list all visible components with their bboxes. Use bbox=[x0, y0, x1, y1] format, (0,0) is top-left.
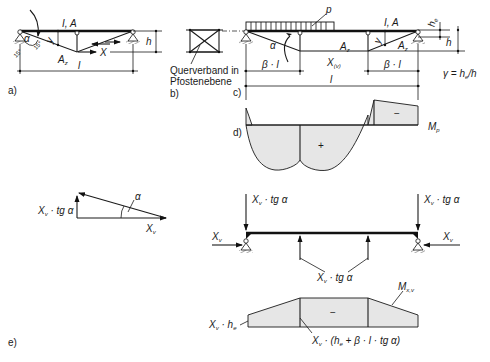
positive-moment-area bbox=[246, 115, 368, 171]
he-label: he bbox=[426, 16, 439, 28]
post-force-label: Xv · tg α bbox=[316, 272, 353, 284]
chord-area-label-right: Az bbox=[397, 40, 408, 52]
load-label: p bbox=[325, 4, 332, 15]
distributed-load-p: p bbox=[246, 4, 334, 31]
triangle-horizontal-label: Xv bbox=[145, 223, 157, 235]
angle-15-left: 15° bbox=[12, 48, 23, 59]
panel-e-tag: e) bbox=[8, 337, 17, 348]
negative-moment-area bbox=[368, 100, 418, 125]
x-v-label: X(v) bbox=[326, 57, 341, 69]
beta-l-left: β · l bbox=[261, 59, 280, 70]
pin-support-right bbox=[411, 239, 425, 253]
load-left-label: Xv · tg α bbox=[251, 194, 288, 206]
minus-sign-e: − bbox=[330, 307, 336, 318]
panel-b-cross-bracing: Querverband in Pfostenebene b) bbox=[170, 29, 239, 99]
span-label: l bbox=[78, 60, 81, 71]
minus-sign: − bbox=[394, 108, 400, 119]
triangle-alpha-label: α bbox=[135, 191, 141, 202]
y-label: y bbox=[43, 35, 56, 45]
triangle-vertical-label: Xv · tg α bbox=[37, 205, 74, 217]
trussed-beam-diagram: α 15° 15° y I, A Az X h l a) bbox=[0, 0, 490, 362]
panel-b-tag: b) bbox=[170, 88, 179, 99]
moment-label: Mp bbox=[428, 121, 440, 133]
h-label: h bbox=[446, 37, 452, 48]
panel-d-moment-diagram: + − Mp d) bbox=[233, 100, 440, 171]
load-right-label: Xv · tg α bbox=[423, 194, 460, 206]
panel-c-loaded-trussed-beam: p α Az Az I, A X(v) y bbox=[222, 4, 477, 100]
span-label: l bbox=[330, 74, 333, 85]
y-label: y bbox=[371, 35, 384, 45]
alpha-label: α bbox=[24, 33, 30, 44]
axial-right-label: Xv bbox=[442, 231, 454, 243]
mid-moment-label: Xv · (he + β · l · tg α) bbox=[311, 335, 400, 347]
panel-e-force-triangle: α Xv · tg α Xv bbox=[37, 191, 166, 235]
gamma-formula: γ = he/h bbox=[443, 68, 477, 80]
beam-section-label: I, A bbox=[384, 17, 399, 28]
moment-label-e: Mx,v bbox=[398, 281, 415, 293]
panel-a-tag: a) bbox=[8, 85, 17, 96]
alpha-label: α bbox=[270, 40, 276, 51]
angle-15-right: 15° bbox=[32, 40, 43, 51]
bracing-caption-line1: Querverband in bbox=[170, 65, 239, 76]
panel-a-trussed-beam: α 15° 15° y I, A Az X h l a) bbox=[8, 10, 162, 96]
plus-sign: + bbox=[318, 140, 324, 151]
beam-section-label: I, A bbox=[62, 18, 77, 29]
x-label: X bbox=[99, 47, 107, 58]
beta-l-right: β · l bbox=[383, 59, 402, 70]
chord-area-label: Az bbox=[339, 41, 350, 53]
end-moment-label: Xv · he bbox=[208, 319, 237, 331]
axial-left-label: Xv bbox=[211, 231, 223, 243]
panel-d-tag: d) bbox=[233, 127, 242, 138]
pin-support-left bbox=[239, 239, 253, 253]
height-label: h bbox=[146, 36, 152, 47]
panel-e-moment-diagram: − Mx,v Xv · he Xv · (he + β · l · tg α) … bbox=[8, 281, 418, 348]
chord-area-label: Az bbox=[57, 54, 68, 66]
panel-c-tag: c) bbox=[233, 87, 241, 98]
panel-e-equivalent-beam: Xv · tg α Xv · tg α Xv Xv Xv · tg α bbox=[211, 194, 460, 284]
bracing-caption-line2: Pfostenebene bbox=[170, 76, 232, 87]
